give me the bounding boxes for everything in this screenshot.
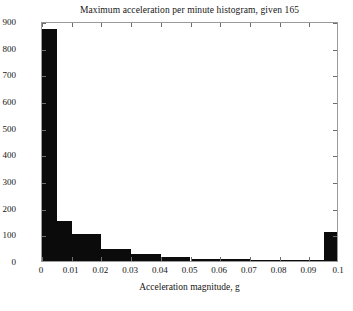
y-axis-tick — [333, 183, 337, 184]
y-axis-tick-label: 500 — [0, 124, 16, 133]
y-axis-tick — [333, 130, 337, 131]
x-axis-title: Acceleration magnitude, g — [41, 281, 338, 293]
x-axis-tick — [309, 257, 310, 261]
y-axis-tick-label: 300 — [0, 178, 16, 187]
histogram-bar — [146, 254, 161, 261]
histogram-bar — [101, 249, 116, 261]
y-axis-tick-label: 900 — [0, 18, 16, 27]
histogram-bar — [309, 260, 324, 261]
y-axis-tick — [42, 103, 46, 104]
x-axis-tick — [309, 23, 310, 27]
x-axis-tick — [101, 257, 102, 261]
x-axis-tick — [220, 23, 221, 27]
x-axis-tick — [250, 257, 251, 261]
x-axis-tick — [72, 23, 73, 27]
y-axis-tick-label: 600 — [0, 98, 16, 107]
histogram-bar — [161, 257, 176, 261]
x-axis-tick — [131, 23, 132, 27]
histogram-bar — [265, 260, 280, 261]
x-axis-tick — [250, 23, 251, 27]
y-axis-tick-label: 400 — [0, 151, 16, 160]
y-axis-tick — [42, 50, 46, 51]
y-axis-tick — [42, 76, 46, 77]
histogram-bar — [72, 234, 87, 261]
histogram-figure: Maximum acceleration per minute histogra… — [0, 0, 353, 311]
y-axis-tick-label: 200 — [0, 204, 16, 213]
y-axis-tick — [333, 76, 337, 77]
histogram-bar — [87, 234, 102, 261]
histogram-bar — [294, 260, 309, 261]
histogram-bar — [176, 257, 191, 261]
y-axis-tick-label: 0 — [0, 258, 16, 267]
x-axis-tick-label: 0.1 — [318, 265, 353, 275]
x-axis-tick — [72, 257, 73, 261]
histogram-bar — [131, 254, 146, 261]
x-axis-tick — [161, 257, 162, 261]
x-axis-tick — [42, 23, 43, 27]
y-axis-tick — [42, 236, 46, 237]
y-axis-tick — [42, 156, 46, 157]
histogram-bar — [205, 259, 220, 261]
y-axis-tick-label: 800 — [0, 44, 16, 53]
y-axis-tick — [333, 23, 337, 24]
histogram-bar — [235, 259, 250, 261]
x-axis-tick — [191, 23, 192, 27]
plot-area — [41, 22, 338, 262]
histogram-bar — [250, 260, 265, 261]
chart-title: Maximum acceleration per minute histogra… — [41, 4, 338, 16]
x-axis-tick — [101, 23, 102, 27]
x-axis-tick — [42, 257, 43, 261]
histogram-bar — [191, 259, 206, 261]
x-axis-tick — [161, 23, 162, 27]
y-axis-tick — [333, 210, 337, 211]
x-axis-tick — [131, 257, 132, 261]
histogram-bar — [42, 29, 57, 261]
x-axis-tick — [280, 23, 281, 27]
y-axis-tick-label: 700 — [0, 71, 16, 80]
y-axis-tick — [333, 103, 337, 104]
y-axis-tick — [333, 50, 337, 51]
y-axis-tick-label: 100 — [0, 231, 16, 240]
x-axis-tick — [280, 257, 281, 261]
x-axis-tick — [191, 257, 192, 261]
histogram-bar — [220, 259, 235, 261]
y-axis-tick — [42, 210, 46, 211]
y-axis-tick — [333, 236, 337, 237]
y-axis-tick — [333, 156, 337, 157]
histogram-bar — [57, 221, 72, 261]
y-axis-tick — [42, 130, 46, 131]
histogram-bar — [116, 249, 131, 261]
x-axis-tick — [220, 257, 221, 261]
y-axis-tick — [42, 183, 46, 184]
histogram-bar — [280, 260, 295, 261]
